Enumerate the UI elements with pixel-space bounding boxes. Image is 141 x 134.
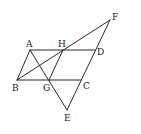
label-F: F xyxy=(112,12,118,22)
label-B: B xyxy=(12,83,19,93)
label-C: C xyxy=(83,81,90,91)
label-G: G xyxy=(43,83,50,93)
label-H: H xyxy=(58,39,66,49)
label-A: A xyxy=(25,39,33,49)
label-E: E xyxy=(64,113,71,123)
geometry-diagram: A H D B G C F E xyxy=(0,0,141,134)
label-D: D xyxy=(97,47,104,57)
